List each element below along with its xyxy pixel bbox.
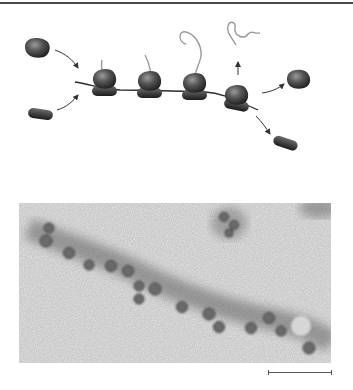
ribosome-1 xyxy=(92,69,117,96)
arrow-small-release xyxy=(256,116,270,134)
arrow-large-to-mrna xyxy=(55,50,78,68)
arrow-small-to-mrna xyxy=(57,95,78,110)
arrow-large-release xyxy=(262,84,284,93)
large-subunit-released xyxy=(287,70,310,89)
small-subunit-incoming xyxy=(27,107,53,120)
micrograph-bright-spot xyxy=(291,316,311,336)
electron-micrograph xyxy=(19,203,331,363)
scale-bar xyxy=(268,370,332,375)
small-subunit-released xyxy=(272,135,299,152)
ribosome-3 xyxy=(182,73,207,100)
large-subunit-incoming xyxy=(25,38,50,58)
ribosome-4 xyxy=(223,85,250,113)
released-polypeptide xyxy=(228,22,260,45)
polysome-diagram xyxy=(0,0,353,180)
ribosome-2 xyxy=(137,71,162,98)
